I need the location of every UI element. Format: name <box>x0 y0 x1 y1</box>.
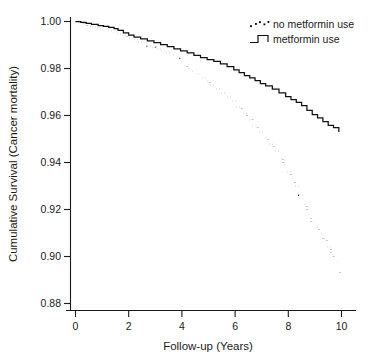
chart-canvas: Cumulative Survival (Cancer mortality) 1… <box>0 0 372 360</box>
legend-entry-metformin-use: metformin use <box>250 33 340 45</box>
y-axis-title: Cumulative Survival (Cancer mortality) <box>7 66 19 262</box>
legend-entry-no-metformin-use: no metformin use <box>250 18 354 30</box>
x-tick-label: 4 <box>179 320 185 332</box>
y-tick-labels: 1.00 0.98 0.96 0.94 0.92 0.90 0.88 <box>41 15 62 309</box>
y-tick-label: 0.96 <box>41 109 62 121</box>
step-line-marker-icon <box>250 36 268 43</box>
legend-label-no-metformin-use: no metformin use <box>273 18 354 30</box>
x-tick-label: 8 <box>285 320 291 332</box>
y-tick-label: 1.00 <box>41 15 62 27</box>
y-tick-label: 0.94 <box>41 156 62 168</box>
y-tick-label: 0.98 <box>41 62 62 74</box>
dotted-marker-icon <box>250 21 269 27</box>
x-tick-label: 6 <box>232 320 238 332</box>
y-tick-label: 0.88 <box>41 297 62 309</box>
x-tick-label: 2 <box>126 320 132 332</box>
legend-label-metformin-use: metformin use <box>273 33 340 45</box>
y-tick-marks <box>64 22 71 304</box>
survival-chart-figure: Cumulative Survival (Cancer mortality) 1… <box>0 0 372 360</box>
x-tick-label: 10 <box>336 320 348 332</box>
x-tick-marks <box>76 311 342 318</box>
x-axis-title: Follow-up (Years) <box>163 340 253 352</box>
y-tick-label: 0.90 <box>41 250 62 262</box>
chart-legend: no metformin use metformin use <box>250 18 354 45</box>
y-tick-label: 0.92 <box>41 203 62 215</box>
x-tick-labels: 0 2 4 6 8 10 <box>73 320 348 332</box>
x-tick-label: 0 <box>73 320 79 332</box>
